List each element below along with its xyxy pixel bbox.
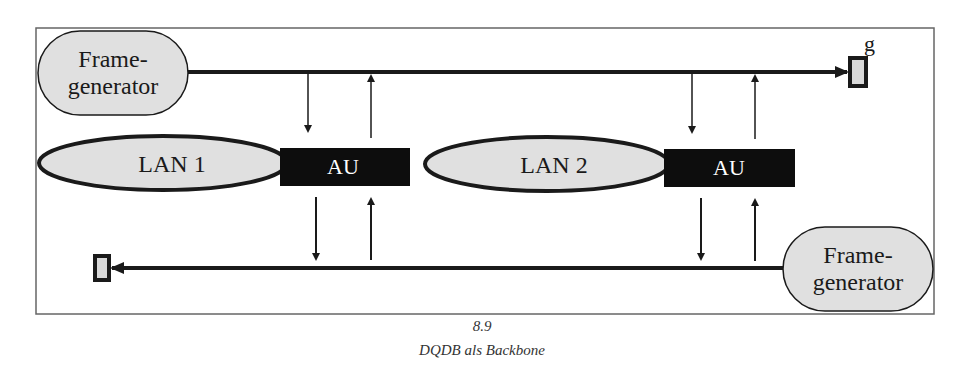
access-unit-2: AU — [664, 149, 795, 187]
frame-generator-bottom-line2: generator — [813, 269, 904, 295]
lan-1: LAN 1 — [39, 136, 287, 190]
figure-title: DQDB als Backbone — [0, 342, 964, 359]
lan-2: LAN 2 — [425, 137, 669, 191]
figure-number: 8.9 — [0, 318, 964, 335]
frame-generator-top-line2: generator — [68, 73, 159, 99]
lan-1-label: LAN 1 — [138, 151, 205, 177]
terminator-label: g — [864, 31, 875, 56]
access-unit-1-label: AU — [327, 154, 359, 179]
frame-generator-top-line1: Frame- — [78, 46, 147, 72]
lan-2-label: LAN 2 — [520, 152, 587, 178]
access-unit-1: AU — [280, 148, 410, 186]
frame-generator-bottom: Frame- generator — [783, 227, 933, 311]
bus-a-terminator — [850, 58, 866, 86]
bus-b-terminator — [95, 256, 109, 280]
frame-generator-top: Frame- generator — [38, 31, 188, 115]
access-unit-2-label: AU — [713, 155, 745, 180]
dqdb-diagram: g Frame- generator Frame- generator LAN … — [0, 0, 964, 372]
frame-generator-bottom-line1: Frame- — [823, 242, 892, 268]
